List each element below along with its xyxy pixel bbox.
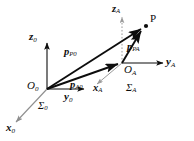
origin-label-OA: OA (124, 64, 136, 77)
frame-label-sigma0: Σ0 (38, 101, 48, 112)
vector-diagram-figure: z0 y0 x0 O0 Σ0 zA yA xA OA ΣA P pP0 pA0 … (0, 0, 194, 141)
vector-p-P0 (47, 29, 141, 89)
point-label-P: P (150, 13, 156, 24)
axis-label-zA: zA (112, 4, 120, 15)
axis-label-x0: x0 (6, 122, 15, 135)
diagram-canvas (0, 0, 194, 141)
position-vectors (47, 29, 141, 89)
vector-label-p-A0: pA0 (70, 80, 83, 91)
frame-label-sigmaA: ΣA (126, 83, 136, 94)
point-P-dot (144, 24, 148, 28)
axis-label-yA: yA (166, 56, 175, 69)
axis-label-y0: y0 (64, 91, 72, 104)
origin-label-O0: O0 (27, 80, 38, 93)
vector-label-p-P0: pP0 (64, 47, 77, 58)
axis-label-xA: xA (93, 83, 102, 94)
axis-label-z0: z0 (29, 31, 37, 44)
vector-label-p-PA: pPA (127, 42, 140, 53)
